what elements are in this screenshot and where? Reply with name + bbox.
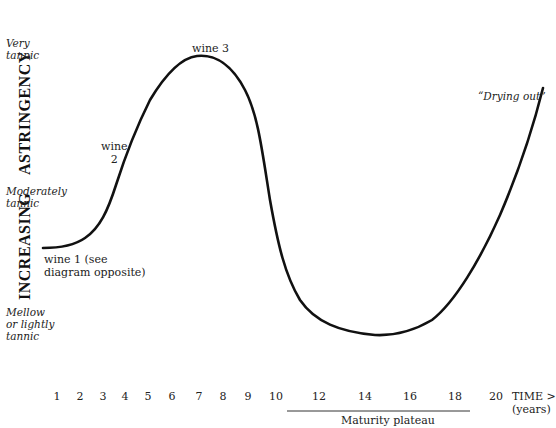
y-level-moderately-tannic: Moderately tannic	[6, 185, 67, 209]
x-tick: 20	[489, 390, 503, 403]
x-tick: 10	[269, 390, 283, 403]
annotation-wine-3: wine 3	[192, 42, 229, 55]
x-tick: 5	[145, 390, 152, 403]
x-tick: 16	[403, 390, 417, 403]
x-tick: 4	[122, 390, 129, 403]
x-tick: 14	[358, 390, 372, 403]
maturity-plateau-label: Maturity plateau	[341, 414, 435, 427]
x-tick: 18	[448, 390, 462, 403]
x-tick: 8	[220, 390, 227, 403]
x-tick: 2	[77, 390, 84, 403]
x-axis-label: TIME > (years)	[512, 390, 556, 416]
annotation-drying-out: “Drying out”	[478, 90, 546, 102]
y-axis-label-top: ASTRINGENCY	[16, 51, 34, 175]
x-tick: 12	[312, 390, 326, 403]
y-level-mellow: Mellow or lightly tannic	[6, 306, 54, 342]
x-tick: 6	[169, 390, 176, 403]
x-tick: 7	[196, 390, 203, 403]
curve-path	[43, 56, 543, 335]
annotation-wine-2: wine 2	[101, 140, 128, 166]
annotation-wine-1: wine 1 (see diagram opposite)	[44, 253, 146, 279]
x-tick: 1	[54, 390, 61, 403]
y-level-very-tannic: Very tannic	[6, 37, 39, 61]
x-tick: 9	[245, 390, 252, 403]
x-tick: 3	[100, 390, 107, 403]
